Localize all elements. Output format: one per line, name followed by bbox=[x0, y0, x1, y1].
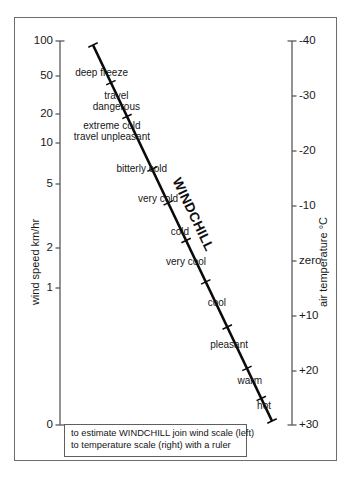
right-axis-tick-minus30: -30 bbox=[299, 90, 316, 102]
caption-line-2: to temperature scale (right) with a rule… bbox=[71, 440, 241, 452]
left-axis-tick-1: 1 bbox=[47, 282, 53, 294]
left-axis-tick-2: 2 bbox=[47, 242, 53, 254]
caption-line-1: to estimate WINDCHILL join wind scale (l… bbox=[71, 428, 241, 440]
band-label-cool: cool bbox=[208, 298, 226, 308]
right-axis-tick-plus20: +20 bbox=[299, 365, 319, 377]
band-label-very-cool: very cool bbox=[166, 257, 206, 267]
left-axis-tick-100: 100 bbox=[34, 35, 53, 47]
right-axis-tick-minus40: -40 bbox=[299, 35, 316, 47]
band-label-deep-freeze: deep freeze bbox=[75, 68, 128, 78]
left-axis-title: wind speed km/hr bbox=[30, 219, 41, 305]
caption-box: to estimate WINDCHILL join wind scale (l… bbox=[64, 424, 247, 457]
left-axis-tick-5: 5 bbox=[47, 178, 53, 190]
figure-frame bbox=[14, 17, 337, 461]
left-axis-tick-20: 20 bbox=[40, 108, 53, 120]
right-axis-tick-plus30: +30 bbox=[299, 419, 319, 431]
band-label-bitterly-cold: bitterly cold bbox=[116, 164, 167, 174]
band-label-warm: warm bbox=[238, 376, 262, 386]
band-label-pleasant: pleasant bbox=[210, 340, 248, 350]
right-axis-title: air temperature °C bbox=[318, 217, 329, 307]
right-axis-tick-minus10: -10 bbox=[299, 200, 316, 212]
band-label-very-cold: very cold bbox=[138, 194, 178, 204]
right-axis-tick-plus10: +10 bbox=[299, 310, 319, 322]
band-label-extreme-cold-travel-unpleasant: extreme cold travel unpleasant bbox=[74, 120, 150, 142]
band-label-travel-dangerous: travel dangerous bbox=[93, 90, 140, 112]
right-axis-tick-minus20: -20 bbox=[299, 145, 316, 157]
band-label-cold: cold bbox=[171, 227, 189, 237]
left-axis-tick-0: 0 bbox=[47, 419, 53, 431]
windchill-nomogram-figure: 1005020105210 -40-30-20-10zero+10+20+30 … bbox=[0, 0, 352, 479]
left-axis-tick-50: 50 bbox=[40, 70, 53, 82]
left-axis-tick-10: 10 bbox=[40, 137, 53, 149]
band-label-hot: hot bbox=[257, 401, 271, 411]
